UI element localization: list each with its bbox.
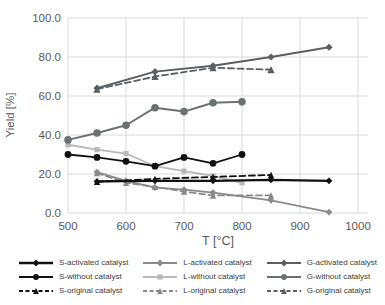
data-point-diamond-marker [33, 259, 40, 266]
data-point-diamond-marker [280, 259, 287, 266]
series-s-without-catalyst [65, 151, 246, 170]
legend-column: S-activated catalystS-without catalystS-… [18, 257, 128, 296]
y-tick-label: 0.0 [45, 207, 61, 219]
data-point-square-marker [123, 151, 128, 156]
x-tick-label: 500 [58, 220, 77, 232]
x-tick-label: 800 [232, 220, 251, 232]
data-point-diamond-marker [326, 209, 333, 216]
legend-line-sample [18, 272, 54, 282]
legend-item: S-without catalyst [18, 271, 128, 282]
legend-item: S-original catalyst [18, 285, 128, 296]
legend-label: L-original catalyst [183, 286, 245, 296]
y-axis-title: Yield [%] [4, 80, 18, 150]
legend-label: G-without catalyst [307, 272, 371, 282]
data-point-circle-marker [238, 98, 246, 106]
series-g-without-catalyst [64, 98, 246, 144]
legend-item: L-original catalyst [142, 285, 251, 296]
legend-label: G-original catalyst [307, 286, 371, 296]
legend-label: S-activated catalyst [59, 258, 128, 268]
data-point-circle-marker [209, 99, 217, 107]
legend-label: S-without catalyst [59, 272, 122, 282]
data-point-square-marker [94, 147, 99, 152]
legend-item: L-without catalyst [142, 271, 251, 282]
data-point-circle-marker [33, 274, 39, 280]
data-point-circle-marker [281, 274, 287, 280]
legend-label: S-original catalyst [59, 286, 122, 296]
plot-area: 0.020.040.060.080.0100.05006007008009001… [0, 0, 385, 252]
y-tick-label: 100.0 [32, 12, 61, 24]
data-point-circle-marker [122, 121, 130, 129]
data-point-circle-marker [93, 129, 101, 137]
legend-item: G-original catalyst [266, 285, 377, 296]
y-tick-label: 40.0 [39, 129, 61, 141]
legend-item: G-without catalyst [266, 271, 377, 282]
chart-legend: S-activated catalystS-without catalystS-… [0, 257, 385, 296]
y-tick-label: 80.0 [39, 51, 61, 63]
legend-line-sample [266, 258, 302, 268]
x-axis-title: T [°C] [68, 234, 368, 248]
data-point-square-marker [181, 168, 186, 173]
legend-line-sample [142, 258, 178, 268]
legend-line-sample [142, 286, 178, 296]
legend-label: G-activated catalyst [307, 258, 377, 268]
data-point-diamond-marker [325, 44, 332, 51]
x-tick-label: 1000 [345, 220, 371, 232]
x-tick-label: 600 [116, 220, 135, 232]
x-tick-label: 700 [174, 220, 193, 232]
y-tick-label: 20.0 [39, 168, 61, 180]
legend-label: L-without catalyst [183, 272, 245, 282]
data-point-circle-marker [94, 154, 101, 161]
data-point-circle-marker [123, 158, 130, 165]
data-point-circle-marker [210, 160, 217, 167]
x-tick-label: 900 [290, 220, 309, 232]
legend-item: S-activated catalyst [18, 257, 128, 268]
legend-item: G-activated catalyst [266, 257, 377, 268]
data-point-diamond-marker [157, 259, 164, 266]
data-point-circle-marker [152, 163, 159, 170]
legend-line-sample [18, 286, 54, 296]
y-tick-label: 60.0 [39, 90, 61, 102]
data-point-diamond-marker [326, 177, 333, 184]
legend-line-sample [18, 258, 54, 268]
data-point-circle-marker [151, 104, 159, 112]
data-point-circle-marker [181, 154, 188, 161]
data-point-diamond-marker [267, 53, 274, 60]
legend-column: L-activated catalystL-without catalystL-… [142, 257, 251, 296]
legend-line-sample [142, 272, 178, 282]
data-point-circle-marker [239, 151, 246, 158]
legend-column: G-activated catalystG-without catalystG-… [266, 257, 377, 296]
legend-line-sample [266, 286, 302, 296]
data-point-circle-marker [180, 108, 188, 116]
yield-vs-temperature-chart: 0.020.040.060.080.0100.05006007008009001… [0, 0, 385, 305]
data-point-square-marker [158, 274, 163, 279]
legend-line-sample [266, 272, 302, 282]
legend-item: L-activated catalyst [142, 257, 251, 268]
data-point-circle-marker [65, 151, 72, 158]
legend-label: L-activated catalyst [183, 258, 251, 268]
data-point-circle-marker [64, 136, 72, 144]
